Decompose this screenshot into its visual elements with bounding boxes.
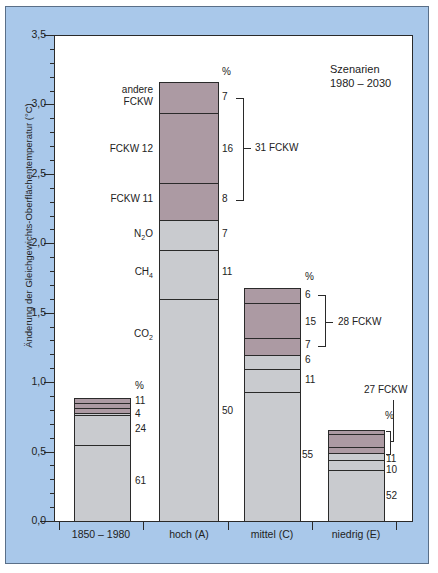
bar-segment-andere-fckw — [244, 288, 301, 304]
y-minor-tick — [50, 479, 55, 480]
y-tick-label: 0,0 — [18, 514, 46, 526]
bar-segment-andere-fckw — [159, 82, 219, 114]
bar-segment-fckw11 — [244, 338, 301, 356]
bar-segment-co2 — [244, 392, 301, 522]
chart-title: Szenarien 1980 – 2030 — [330, 62, 391, 90]
pct-label: 50 — [222, 405, 233, 416]
y-minor-tick — [50, 91, 55, 92]
y-minor-tick — [50, 354, 55, 355]
bar-segment-ch4 — [244, 369, 301, 393]
y-minor-tick — [50, 493, 55, 494]
gas-label-andere-fckw: andere FCKW — [95, 84, 153, 108]
bar-segment-n2o — [159, 220, 219, 251]
gas-label-ch4: CH4 — [85, 266, 153, 279]
x-category-label: 1850 – 1980 — [56, 528, 146, 540]
pct-label: 7 — [222, 228, 228, 239]
percent-sign: % — [305, 271, 314, 282]
bar-segment-co2 — [328, 470, 385, 522]
gas-label-fckw11: FCKW 11 — [85, 193, 153, 204]
pct-label: 8 — [222, 193, 228, 204]
gas-text: CO — [134, 328, 149, 339]
gas-label-co2: CO2 — [85, 328, 153, 341]
bar-segment-fckw12 — [244, 303, 301, 339]
y-tick-label: 0,5 — [18, 445, 46, 457]
y-minor-tick — [50, 63, 55, 64]
fckw-bracket — [386, 431, 391, 455]
y-minor-tick — [50, 146, 55, 147]
bar-segment-ch4 — [74, 415, 131, 446]
bar-segment-co2 — [159, 299, 219, 522]
y-minor-tick — [50, 396, 55, 397]
bar-segment-fckw11 — [159, 183, 219, 221]
pct-label: 6 — [305, 289, 311, 300]
y-minor-tick — [50, 229, 55, 230]
pct-label: 55 — [302, 449, 313, 460]
pct-label: 6 — [305, 354, 311, 365]
x-category-label: niedrig (E) — [311, 528, 401, 540]
y-minor-tick — [50, 202, 55, 203]
gas-label-fckw12: FCKW 12 — [85, 143, 153, 154]
bracket-tick — [244, 148, 251, 149]
gas-label-n2o: N2O — [85, 228, 153, 241]
pct-label: 4 — [135, 408, 141, 419]
percent-sign: % — [135, 380, 144, 391]
y-axis-title: Änderung der Gleichgewichts-Oberflächent… — [23, 96, 34, 356]
gas-subscript: 4 — [149, 272, 153, 279]
pct-label: 10 — [386, 464, 397, 475]
y-minor-tick — [50, 340, 55, 341]
y-minor-tick — [50, 299, 55, 300]
x-category-label: mittel (C) — [227, 528, 317, 540]
gas-label-line: andere — [95, 84, 153, 96]
y-minor-tick — [50, 285, 55, 286]
fckw-bracket — [318, 295, 326, 347]
y-minor-tick — [50, 118, 55, 119]
bar-segment-n2o — [244, 355, 301, 370]
gas-label-line: FCKW — [95, 96, 153, 108]
y-minor-tick — [50, 257, 55, 258]
fckw-total-label: 28 FCKW — [338, 316, 381, 327]
bar-segment-fckw12 — [328, 434, 385, 448]
y-minor-tick — [50, 507, 55, 508]
bar-segment-co2 — [74, 445, 131, 522]
y-minor-tick — [50, 465, 55, 466]
title-line-1: Szenarien — [330, 62, 391, 76]
pct-label: 61 — [135, 475, 146, 486]
pct-label: 15 — [305, 316, 316, 327]
y-minor-tick — [50, 327, 55, 328]
pct-label: 16 — [222, 143, 233, 154]
fckw-bracket — [236, 98, 244, 201]
y-minor-tick — [50, 188, 55, 189]
pct-label: 11 — [135, 395, 145, 406]
pct-label: 24 — [135, 423, 146, 434]
gas-text: CH — [135, 266, 149, 277]
pct-label: 11 — [305, 374, 315, 385]
y-minor-tick — [50, 368, 55, 369]
y-tick-label: 1,0 — [18, 375, 46, 387]
gas-subscript: 2 — [149, 334, 153, 341]
y-minor-tick — [50, 132, 55, 133]
y-minor-tick — [50, 77, 55, 78]
y-minor-tick — [50, 424, 55, 425]
title-line-2: 1980 – 2030 — [330, 76, 391, 90]
y-minor-tick — [50, 49, 55, 50]
bar-segment-fckw12 — [159, 113, 219, 184]
bar-segment-ch4 — [159, 250, 219, 300]
pct-label: 11 — [222, 266, 232, 277]
x-category-label: hoch (A) — [144, 528, 234, 540]
pct-label: 52 — [386, 490, 397, 501]
y-minor-tick — [50, 160, 55, 161]
bracket-leader-line — [393, 400, 394, 442]
bracket-tick — [326, 322, 333, 323]
gas-text: O — [145, 228, 153, 239]
y-axis — [54, 35, 55, 522]
y-tick-label: 3,5 — [18, 28, 46, 40]
y-minor-tick — [50, 438, 55, 439]
percent-sign: % — [222, 66, 231, 77]
y-minor-tick — [50, 216, 55, 217]
fckw-total-label: 31 FCKW — [255, 142, 298, 153]
pct-label: 7 — [305, 339, 311, 350]
pct-label: 7 — [222, 91, 228, 102]
fckw-total-label: 27 FCKW — [364, 384, 407, 395]
y-minor-tick — [50, 410, 55, 411]
y-minor-tick — [50, 271, 55, 272]
